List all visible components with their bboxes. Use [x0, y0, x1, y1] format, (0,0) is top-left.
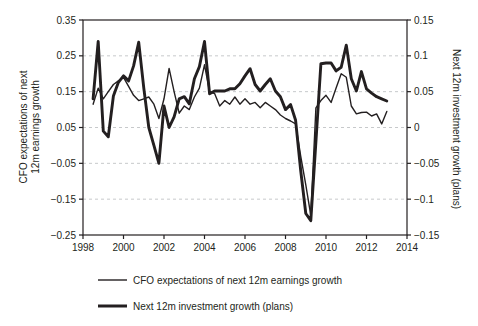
x-axis-tick-label: 1998	[72, 242, 95, 253]
legend: CFO expectations of next 12m earnings gr…	[98, 275, 342, 312]
y-axis-right-tick-label: 0	[414, 122, 420, 133]
y-axis-left-tick-label: −0.15	[51, 194, 77, 205]
x-axis-tick-label: 2012	[355, 242, 378, 253]
y-axis-left-tick-label: −0.05	[51, 158, 77, 169]
y-axis-left-tick-label: 0.05	[57, 122, 77, 133]
x-axis-tick-label: 2008	[274, 242, 297, 253]
y-axis-left-title-line2: 12m earnings growth	[30, 80, 41, 173]
y-axis-left-tick-label: 0.25	[57, 50, 77, 61]
y-axis-right-tick-label: −0.15	[414, 230, 440, 241]
x-axis: 199820002002200420062008201020122014	[72, 235, 419, 253]
y-axis-left-title-line1: CFO expectations of next	[18, 70, 29, 183]
x-axis-tick-label: 2014	[396, 242, 419, 253]
y-axis-left: 0.350.250.150.05−0.05−0.15−0.25	[51, 15, 83, 241]
investment-plans-line	[93, 42, 387, 221]
cfo-expectations-chart-figure: 0.350.250.150.05−0.05−0.15−0.25 0.150.10…	[0, 0, 478, 326]
cfo-earnings-expectations-line	[93, 65, 387, 216]
y-axis-left-tick-label: 0.15	[57, 86, 77, 97]
x-axis-tick-label: 2004	[193, 242, 216, 253]
x-axis-tick-label: 2006	[234, 242, 257, 253]
y-axis-right: 0.150.10.050−0.05−0.1−0.15	[407, 15, 440, 241]
series-lines	[93, 42, 387, 221]
x-axis-tick-label: 2002	[153, 242, 176, 253]
y-axis-right-tick-label: 0.05	[414, 86, 434, 97]
x-axis-tick-label: 2000	[112, 242, 135, 253]
legend-label-investment: Next 12m investment growth (plans)	[133, 301, 293, 312]
y-axis-left-tick-label: 0.35	[57, 15, 77, 26]
chart-canvas: 0.350.250.150.05−0.05−0.15−0.25 0.150.10…	[0, 0, 478, 326]
y-axis-right-tick-label: −0.1	[414, 194, 434, 205]
x-axis-tick-label: 2010	[315, 242, 338, 253]
legend-label-earnings: CFO expectations of next 12m earnings gr…	[133, 275, 342, 286]
y-axis-right-tick-label: 0.15	[414, 15, 434, 26]
y-axis-left-tick-label: −0.25	[51, 230, 77, 241]
y-axis-right-tick-label: −0.05	[414, 158, 440, 169]
y-axis-right-tick-label: 0.1	[414, 50, 428, 61]
y-axis-right-title: Next 12m investment growth (plans)	[451, 49, 462, 209]
